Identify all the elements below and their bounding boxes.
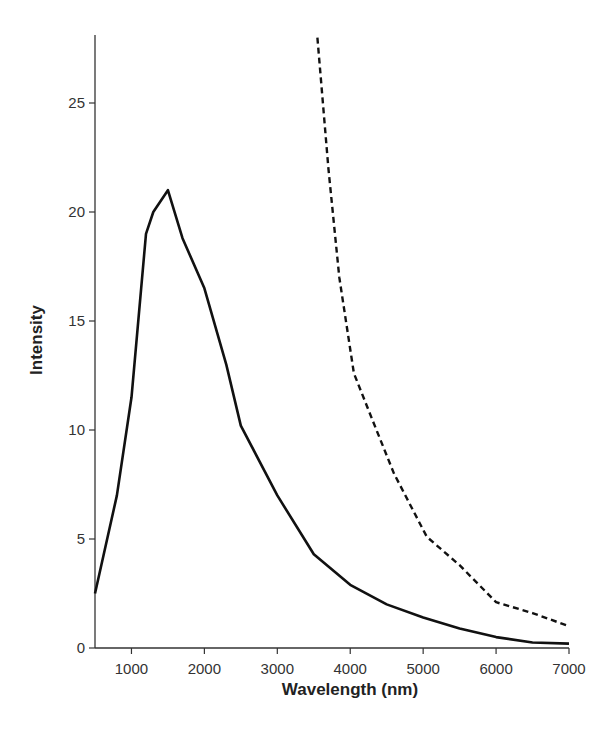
x-tick-label: 7000 bbox=[552, 660, 585, 677]
x-tick-label: 1000 bbox=[115, 660, 148, 677]
series-solid-line bbox=[95, 190, 569, 643]
x-tick-label: 3000 bbox=[261, 660, 294, 677]
y-axis-title: Intensity bbox=[27, 305, 46, 375]
intensity-wavelength-chart: 05101520251000200030004000500060007000 W… bbox=[0, 0, 614, 738]
series-layer bbox=[95, 38, 569, 644]
x-tick-label: 2000 bbox=[188, 660, 221, 677]
y-tick-label: 0 bbox=[77, 639, 85, 656]
x-tick-label: 5000 bbox=[406, 660, 439, 677]
y-tick-label: 20 bbox=[68, 203, 85, 220]
y-tick-label: 5 bbox=[77, 530, 85, 547]
y-tick-label: 10 bbox=[68, 421, 85, 438]
x-tick-label: 4000 bbox=[334, 660, 367, 677]
x-tick-label: 6000 bbox=[479, 660, 512, 677]
series-dashed-line bbox=[317, 38, 569, 627]
x-axis-title: Wavelength (nm) bbox=[282, 680, 418, 699]
axes: 05101520251000200030004000500060007000 bbox=[68, 35, 585, 677]
y-tick-label: 25 bbox=[68, 94, 85, 111]
y-tick-label: 15 bbox=[68, 312, 85, 329]
